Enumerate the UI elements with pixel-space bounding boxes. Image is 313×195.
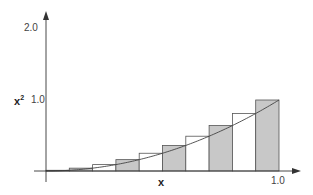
- y-tick-label-1: 1.0: [31, 95, 45, 105]
- chart: [0, 0, 313, 195]
- bar-8: [209, 126, 232, 171]
- y-tick-label-2: 2.0: [24, 23, 38, 33]
- bar-5: [139, 153, 162, 171]
- bars-group: [46, 100, 279, 171]
- bar-9: [232, 113, 255, 171]
- x-axis-arrow-icon: [292, 168, 301, 174]
- x-tick-label-1: 1.0: [271, 176, 285, 186]
- y-axis-label-exponent: 2: [20, 94, 24, 101]
- y-axis-arrow-icon: [43, 11, 49, 20]
- bar-10: [256, 100, 279, 171]
- bar-4: [116, 160, 139, 171]
- y-axis-label: x2: [14, 94, 24, 107]
- x-axis-label: x: [158, 177, 164, 188]
